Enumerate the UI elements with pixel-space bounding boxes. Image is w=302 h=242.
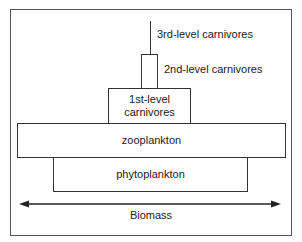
biomass-axis-label: Biomass xyxy=(0,209,302,221)
biomass-arrow-icon xyxy=(0,0,302,242)
